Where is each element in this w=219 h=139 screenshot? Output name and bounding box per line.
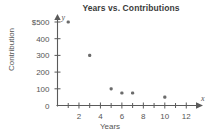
x-tick-label: 4 xyxy=(98,112,103,121)
y-tick-label: 200 xyxy=(36,68,50,77)
data-point xyxy=(120,91,123,94)
data-point xyxy=(88,54,91,57)
y-tick-label: $500 xyxy=(32,18,50,27)
x-tick-label: 2 xyxy=(77,112,82,121)
y-axis-letter: y xyxy=(61,13,66,22)
y-tick-label: 100 xyxy=(36,85,50,94)
y-axis-label: Contribution xyxy=(7,15,16,85)
y-tick-label: 300 xyxy=(36,51,50,60)
data-point xyxy=(163,96,166,99)
x-axis-label: Years xyxy=(70,122,150,131)
x-axis-letter: x xyxy=(200,94,205,103)
y-tick-label: 0 xyxy=(45,102,50,111)
x-tick-label: 12 xyxy=(182,112,191,121)
data-point xyxy=(67,20,70,23)
scatter-chart: Years vs. Contributions yx24681012010020… xyxy=(0,0,219,139)
x-tick-label: 6 xyxy=(120,112,125,121)
x-tick-label: 8 xyxy=(141,112,146,121)
plot-area: yx246810120100200300400$500 xyxy=(0,0,219,139)
y-tick-label: 400 xyxy=(36,35,50,44)
x-tick-label: 10 xyxy=(160,112,169,121)
data-point xyxy=(131,91,134,94)
y-axis-arrow xyxy=(54,14,60,20)
data-point xyxy=(110,87,113,90)
